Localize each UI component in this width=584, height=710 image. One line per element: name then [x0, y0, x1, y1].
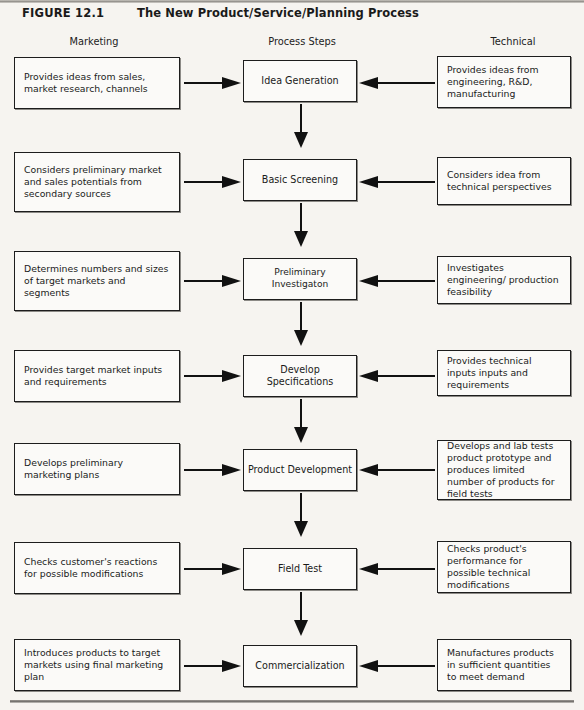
arrow-right-to-center-1	[359, 77, 435, 89]
marketing-box-3: Determines numbers and sizes of target m…	[14, 251, 180, 311]
figure-number: FIGURE 12.1	[22, 6, 104, 20]
arrow-left-to-center-6	[184, 563, 241, 575]
arrowhead-left-icon	[359, 176, 378, 188]
arrow-shaft	[300, 104, 302, 132]
process-step-box-1-label: Idea Generation	[244, 75, 356, 87]
arrowhead-left-icon	[359, 563, 378, 575]
arrowhead-left-icon	[359, 275, 378, 287]
arrow-shaft	[184, 375, 224, 377]
process-step-box-2-label: Basic Screening	[244, 174, 356, 186]
arrow-shaft	[378, 375, 435, 377]
process-step-box-4-label: Develop Specifications	[244, 364, 356, 389]
arrowhead-right-icon	[222, 660, 241, 672]
flow-arrow-down-4	[294, 399, 308, 443]
marketing-box-4: Provides target market inputs and requir…	[14, 350, 180, 402]
technical-box-3: Investigates engineering/ production fea…	[437, 256, 571, 304]
bottom-divider-rule	[10, 700, 574, 703]
arrow-left-to-center-7	[184, 660, 241, 672]
arrow-left-to-center-1	[184, 77, 241, 89]
arrow-left-to-center-5	[184, 464, 241, 476]
marketing-box-6: Checks customer's reactions for possible…	[14, 542, 180, 594]
arrow-shaft	[378, 568, 435, 570]
arrow-right-to-center-7	[359, 660, 435, 672]
figure-title: The New Product/Service/Planning Process	[137, 6, 419, 20]
process-step-box-5-label: Product Development	[244, 464, 356, 476]
arrowhead-down-icon	[294, 231, 308, 247]
arrow-shaft	[300, 592, 302, 620]
technical-box-4: Provides technical inputs inputs and req…	[437, 350, 571, 396]
flow-arrow-down-3	[294, 302, 308, 346]
arrowhead-right-icon	[222, 176, 241, 188]
arrow-shaft	[378, 665, 435, 667]
technical-box-1-label: Provides ideas from engineering, R&D, ma…	[438, 64, 570, 100]
technical-box-1: Provides ideas from engineering, R&D, ma…	[437, 56, 571, 108]
arrowhead-left-icon	[359, 660, 378, 672]
marketing-box-6-label: Checks customer's reactions for possible…	[15, 556, 179, 580]
arrow-shaft	[300, 399, 302, 427]
top-divider-rule	[0, 0, 584, 3]
technical-box-3-label: Investigates engineering/ production fea…	[438, 262, 570, 298]
arrow-shaft	[378, 280, 435, 282]
arrowhead-right-icon	[222, 563, 241, 575]
arrow-shaft	[184, 469, 224, 471]
arrow-shaft	[184, 280, 224, 282]
marketing-box-7-label: Introduces products to target markets us…	[15, 647, 179, 683]
marketing-box-2-label: Considers preliminary market and sales p…	[15, 164, 179, 200]
arrow-left-to-center-3	[184, 275, 241, 287]
column-header-technical: Technical	[448, 36, 578, 47]
marketing-box-5-label: Develops preliminary marketing plans	[15, 457, 179, 481]
marketing-box-1-label: Provides ideas from sales, market resear…	[15, 71, 179, 95]
arrow-shaft	[378, 82, 435, 84]
process-step-box-3-label: Preliminary Investigaton	[244, 267, 356, 291]
arrowhead-right-icon	[222, 464, 241, 476]
process-step-box-3: Preliminary Investigaton	[243, 258, 357, 300]
arrow-shaft	[184, 568, 224, 570]
technical-box-4-label: Provides technical inputs inputs and req…	[438, 355, 570, 391]
figure-page: FIGURE 12.1 The New Product/Service/Plan…	[0, 0, 584, 710]
process-step-box-6: Field Test	[243, 548, 357, 590]
process-step-box-2: Basic Screening	[243, 159, 357, 201]
marketing-box-1: Provides ideas from sales, market resear…	[14, 57, 180, 109]
arrow-right-to-center-2	[359, 176, 435, 188]
arrow-right-to-center-5	[359, 464, 435, 476]
arrowhead-down-icon	[294, 132, 308, 148]
arrowhead-right-icon	[222, 77, 241, 89]
arrow-shaft	[184, 181, 224, 183]
arrowhead-right-icon	[222, 370, 241, 382]
arrow-shaft	[184, 665, 224, 667]
arrowhead-down-icon	[294, 620, 308, 636]
column-header-marketing: Marketing	[24, 36, 164, 47]
arrow-shaft	[300, 302, 302, 330]
arrow-left-to-center-2	[184, 176, 241, 188]
technical-box-2: Considers idea from technical perspectiv…	[437, 157, 571, 205]
arrowhead-left-icon	[359, 77, 378, 89]
marketing-box-5: Develops preliminary marketing plans	[14, 443, 180, 495]
arrowhead-down-icon	[294, 521, 308, 537]
flow-arrow-down-6	[294, 592, 308, 636]
arrowhead-left-icon	[359, 464, 378, 476]
technical-box-6: Checks product's performance for possibl…	[437, 541, 571, 593]
technical-box-2-label: Considers idea from technical perspectiv…	[438, 169, 570, 193]
marketing-box-3-label: Determines numbers and sizes of target m…	[15, 263, 179, 299]
marketing-box-7: Introduces products to target markets us…	[14, 639, 180, 691]
arrow-right-to-center-4	[359, 370, 435, 382]
process-step-box-7: Commercialization	[243, 645, 357, 687]
arrowhead-down-icon	[294, 330, 308, 346]
arrow-shaft	[378, 181, 435, 183]
technical-box-7-label: Manufactures products in sufficient quan…	[438, 647, 570, 683]
process-step-box-4: Develop Specifications	[243, 355, 357, 397]
flow-arrow-down-1	[294, 104, 308, 148]
technical-box-7: Manufactures products in sufficient quan…	[437, 639, 571, 691]
marketing-box-4-label: Provides target market inputs and requir…	[15, 364, 179, 388]
arrow-shaft	[378, 469, 435, 471]
arrowhead-right-icon	[222, 275, 241, 287]
arrowhead-down-icon	[294, 427, 308, 443]
arrow-shaft	[300, 493, 302, 521]
marketing-box-2: Considers preliminary market and sales p…	[14, 152, 180, 212]
column-header-process-steps: Process Steps	[240, 36, 364, 47]
flow-arrow-down-5	[294, 493, 308, 537]
technical-box-6-label: Checks product's performance for possibl…	[438, 543, 570, 591]
arrowhead-left-icon	[359, 370, 378, 382]
process-step-box-5: Product Development	[243, 449, 357, 491]
technical-box-5-label: Develops and lab tests product prototype…	[438, 440, 570, 500]
